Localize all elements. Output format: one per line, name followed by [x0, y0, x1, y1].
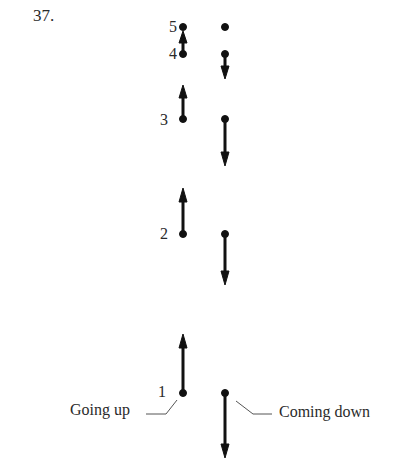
arrow-down-2	[221, 234, 229, 285]
arrow-down-1	[221, 393, 229, 458]
going-up-column	[179, 24, 187, 397]
arrow-up-3	[179, 85, 187, 119]
arrow-up-4	[179, 31, 187, 54]
going-up-leader-line	[146, 400, 177, 414]
arrow-down-3	[221, 119, 229, 166]
coming-down-column	[221, 24, 229, 459]
velocity-diagram	[0, 0, 399, 467]
coming-down-leader-line	[236, 401, 272, 414]
arrow-up-2	[179, 188, 187, 234]
arrow-up-1	[179, 334, 187, 393]
ball-dot-down-5	[222, 24, 229, 31]
arrow-down-4	[221, 54, 229, 79]
